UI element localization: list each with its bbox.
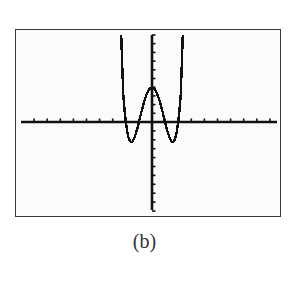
graph-screen <box>15 29 281 217</box>
plot-area <box>16 30 279 215</box>
figure-caption: (b) <box>0 230 289 253</box>
calculator-graph-figure: (b) <box>0 0 289 284</box>
